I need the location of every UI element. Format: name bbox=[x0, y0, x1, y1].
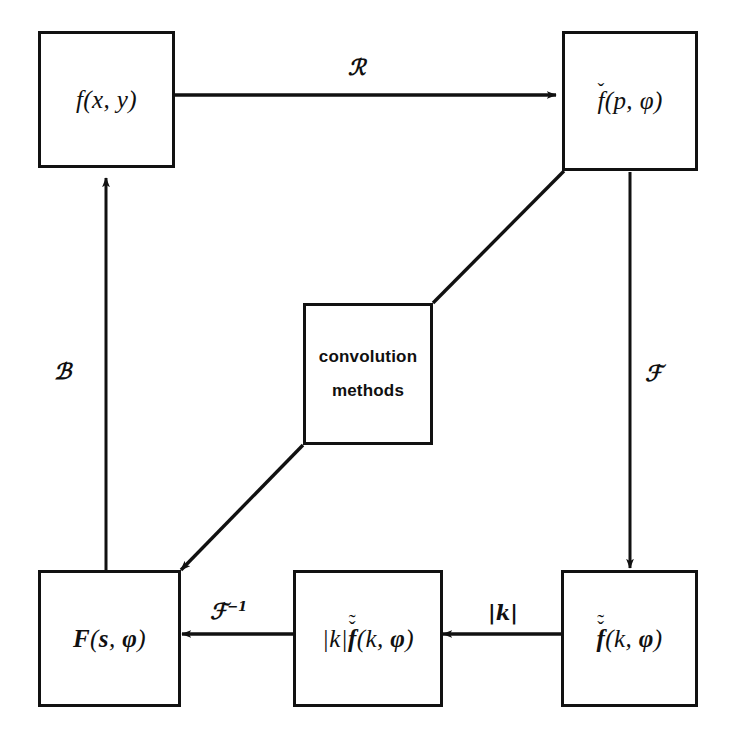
node-F-s-phi[interactable]: F(s, φ) bbox=[38, 570, 181, 707]
node-F-s-phi-label: F(s, φ) bbox=[73, 625, 146, 653]
node-absk-f-tilde-check-k-phi[interactable]: |k|fˇ˜(k, φ) bbox=[293, 570, 443, 707]
line-convolution-to-sinogram bbox=[433, 171, 564, 303]
edge-label-fourier: ℱ bbox=[645, 362, 662, 384]
edge-label-ramp-filter: |k| bbox=[488, 602, 518, 623]
edge-label-inverse-fourier: ℱ−1 bbox=[210, 600, 247, 622]
edge-label-radon: ℛ bbox=[348, 56, 366, 78]
accent-tilde-caron-f: fˇ˜ bbox=[596, 625, 605, 653]
node-convolution-methods-line2: methods bbox=[332, 374, 404, 408]
flow-diagram: f^(p,phi) --> f(x,y) (upward) --> f~^(k,… bbox=[0, 0, 735, 744]
node-f-xy[interactable]: f(x, y) bbox=[38, 31, 175, 168]
node-f-xy-label: f(x, y) bbox=[76, 86, 137, 114]
arrow-convolution-to-backprojected bbox=[181, 445, 303, 570]
node-convolution-methods[interactable]: convolution methods bbox=[303, 303, 433, 445]
accent-caron-f: fˇ bbox=[597, 87, 604, 115]
node-f-check-p-phi[interactable]: fˇ(p, φ) bbox=[562, 31, 698, 171]
edge-label-backprojection: ℬ bbox=[54, 360, 71, 382]
node-f-check-p-phi-label: fˇ(p, φ) bbox=[597, 87, 662, 115]
node-convolution-methods-line1: convolution bbox=[319, 340, 418, 374]
node-f-tilde-check-k-phi[interactable]: fˇ˜(k, φ) bbox=[561, 570, 698, 707]
inverse-fourier-exponent: −1 bbox=[227, 599, 247, 614]
node-f-tilde-check-k-phi-label: fˇ˜(k, φ) bbox=[596, 625, 662, 653]
accent-tilde-caron-f: fˇ˜ bbox=[348, 625, 357, 653]
inverse-fourier-symbol: ℱ bbox=[210, 598, 227, 624]
node-absk-f-tilde-check-k-phi-label: |k|fˇ˜(k, φ) bbox=[322, 625, 414, 653]
